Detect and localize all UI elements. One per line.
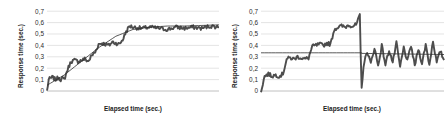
- left-gridlines: [47, 11, 219, 79]
- chart-panel-right: Response time (sec.) 0,7 0,6 0,5 0,4 0,3…: [224, 0, 447, 123]
- right-ytick-label-3: 0,4: [249, 42, 258, 49]
- left-ytick-label-6: 0,1: [35, 76, 44, 83]
- left-ytick-label-3: 0,4: [35, 42, 44, 49]
- right-ytick-label-0: 0,7: [249, 8, 258, 15]
- right-ytick-label-5: 0,2: [249, 65, 258, 72]
- left-ytick-label-7: 0: [40, 87, 44, 94]
- left-x-axis-title: Elapsed time (sec.): [104, 105, 162, 113]
- left-chart-svg: Response time (sec.) 0,7 0,6 0,5 0,4 0,3…: [0, 0, 223, 123]
- left-data-series: [47, 25, 219, 91]
- right-x-axis-title: Elapsed time (sec.): [323, 105, 381, 113]
- right-gridlines: [261, 11, 444, 79]
- right-ytick-label-6: 0,1: [249, 76, 258, 83]
- right-y-axis-title: Response time (sec.): [231, 24, 239, 88]
- left-y-axis-title: Response time (sec.): [17, 24, 25, 88]
- left-ytick-label-1: 0,6: [35, 19, 44, 26]
- left-ytick-label-4: 0,3: [35, 53, 44, 60]
- chart-panel-left: Response time (sec.) 0,7 0,6 0,5 0,4 0,3…: [0, 0, 224, 123]
- right-ytick-label-1: 0,6: [249, 19, 258, 26]
- right-chart-svg: Response time (sec.) 0,7 0,6 0,5 0,4 0,3…: [224, 0, 447, 123]
- right-data-series: [261, 14, 444, 92]
- left-ytick-label-2: 0,5: [35, 30, 44, 37]
- right-ytick-label-7: 0: [254, 87, 258, 94]
- left-ytick-label-0: 0,7: [35, 8, 44, 15]
- left-ytick-label-5: 0,2: [35, 65, 44, 72]
- right-ytick-label-2: 0,5: [249, 30, 258, 37]
- two-panel-figure: Response time (sec.) 0,7 0,6 0,5 0,4 0,3…: [0, 0, 447, 123]
- right-ytick-label-4: 0,3: [249, 53, 258, 60]
